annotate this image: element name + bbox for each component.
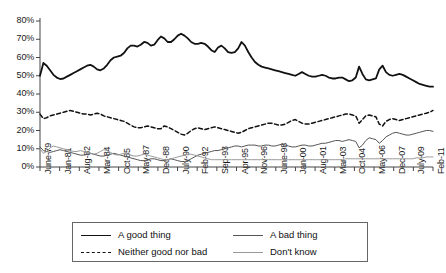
legend-line-icon-a-bad-thing	[233, 235, 263, 236]
legend-item-a-bad-thing: A bad thing	[233, 228, 318, 242]
legend-line-icon-neither-good-nor-bad	[81, 252, 111, 253]
legend-label-dont-know: Don't know	[270, 247, 317, 257]
legend-label-a-bad-thing: A bad thing	[270, 230, 318, 240]
series-group	[40, 34, 433, 162]
chart-legend: A good thing A bad thing Neither good no…	[72, 222, 368, 262]
axis-group	[36, 18, 433, 171]
series-line-a-bad-thing	[40, 131, 433, 162]
series-line-a-good-thing	[40, 34, 433, 87]
legend-line-icon-a-good-thing	[81, 235, 111, 236]
series-line-neither-good-nor-bad	[40, 110, 433, 135]
legend-item-dont-know: Don't know	[233, 245, 317, 259]
legend-item-a-good-thing: A good thing	[81, 228, 171, 242]
series-line-don-t-know	[40, 146, 433, 160]
legend-item-neither-good-nor-bad: Neither good nor bad	[81, 245, 207, 259]
legend-label-a-good-thing: A good thing	[118, 230, 171, 240]
legend-line-icon-dont-know	[233, 252, 263, 253]
legend-label-neither-good-nor-bad: Neither good nor bad	[118, 247, 207, 257]
